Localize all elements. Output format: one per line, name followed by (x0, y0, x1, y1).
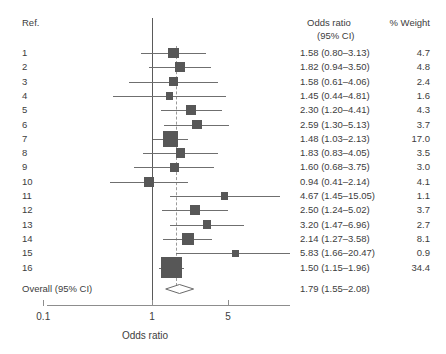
effect-size-marker (169, 77, 178, 86)
study-ref-label: 4 (22, 91, 48, 101)
odds-ratio-value: 3.20 (1.47–6.96) (300, 220, 370, 230)
weight-value: 4.1 (380, 177, 430, 187)
study-ref-label: 11 (22, 191, 48, 201)
x-axis-tick (152, 300, 153, 306)
weight-value: 1.1 (380, 191, 430, 201)
study-ref-label: 13 (22, 220, 48, 230)
weight-value: 3.5 (380, 148, 430, 158)
odds-ratio-value: 1.58 (0.80–3.13) (300, 48, 370, 58)
weight-value: 3.7 (380, 120, 430, 130)
pooled-estimate-diamond (166, 285, 194, 294)
effect-size-marker (192, 120, 202, 130)
effect-size-marker (144, 177, 154, 187)
odds-ratio-value: 1.58 (0.61–4.06) (300, 77, 370, 87)
study-ref-label: 7 (22, 134, 48, 144)
x-axis-tick-label: 0.1 (36, 311, 50, 322)
effect-size-marker (203, 220, 212, 229)
effect-size-marker (161, 257, 182, 278)
x-axis-tick (228, 300, 229, 306)
effect-size-marker (163, 131, 179, 147)
null-effect-line (152, 18, 153, 305)
effect-size-marker (232, 250, 239, 257)
effect-size-marker (175, 62, 185, 72)
x-axis-title: Odds ratio (0, 330, 290, 341)
odds-ratio-value: 2.30 (1.20–4.41) (300, 105, 370, 115)
study-ref-label: 14 (22, 234, 48, 244)
weight-value: 3.0 (380, 162, 430, 172)
weight-value: 2.7 (380, 220, 430, 230)
effect-size-marker (176, 148, 185, 157)
x-axis-tick (43, 300, 44, 306)
study-ref-label: 15 (22, 248, 48, 258)
odds-ratio-value: 1.48 (1.03–2.13) (300, 134, 370, 144)
odds-ratio-value: 4.67 (1.45–15.05) (300, 191, 375, 201)
weight-value: 17.0 (380, 134, 430, 144)
weight-value: 2.4 (380, 77, 430, 87)
effect-size-marker (168, 48, 178, 58)
study-ref-label: 12 (22, 205, 48, 215)
weight-value: 4.7 (380, 48, 430, 58)
x-axis-line (47, 305, 290, 306)
study-ref-label: 1 (22, 48, 48, 58)
study-ref-label: 9 (22, 162, 48, 172)
effect-size-marker (186, 105, 196, 115)
weight-value: 0.9 (380, 248, 430, 258)
weight-value: 4.8 (380, 62, 430, 72)
effect-size-marker (166, 92, 174, 100)
study-ref-label: 6 (22, 120, 48, 130)
odds-ratio-value: 0.94 (0.41–2.14) (300, 177, 370, 187)
x-axis-tick-label: 5 (225, 311, 231, 322)
odds-ratio-value: 2.14 (1.27–3.58) (300, 234, 370, 244)
overall-label: Overall (95% CI) (22, 284, 92, 294)
odds-ratio-value: 1.45 (0.44–4.81) (300, 91, 370, 101)
forest-plot: Ref. Odds ratio (95% CI) % Weight 11.58 … (0, 0, 446, 354)
weight-value: 1.6 (380, 91, 430, 101)
weight-value: 3.7 (380, 205, 430, 215)
study-ref-label: 16 (22, 263, 48, 273)
effect-size-marker (221, 192, 228, 199)
overall-odds-ratio-text: 1.79 (1.55–2.08) (300, 284, 370, 294)
ref-column-header: Ref. (22, 18, 39, 28)
odds-ratio-value: 1.82 (0.94–3.50) (300, 62, 370, 72)
odds-ratio-value: 5.83 (1.66–20.47) (300, 248, 375, 258)
odds-ratio-value: 1.83 (0.83–4.05) (300, 148, 370, 158)
study-ref-label: 8 (22, 148, 48, 158)
weight-value: 34.4 (380, 263, 430, 273)
study-ref-label: 3 (22, 77, 48, 87)
odds-ratio-value: 2.59 (1.30–5.13) (300, 120, 370, 130)
x-axis-tick-label: 1 (149, 311, 155, 322)
effect-size-marker (190, 205, 200, 215)
weight-value: 8.1 (380, 234, 430, 244)
weight-column-header: % Weight (380, 18, 430, 28)
effect-size-marker (170, 163, 179, 172)
study-ref-label: 2 (22, 62, 48, 72)
odds-ratio-value: 1.60 (0.68–3.75) (300, 162, 370, 172)
odds-ratio-ci-subheader: (95% CI) (317, 31, 354, 41)
study-ref-label: 10 (22, 177, 48, 187)
weight-value: 4.3 (380, 105, 430, 115)
effect-size-marker (182, 233, 194, 245)
odds-ratio-value: 1.50 (1.15–1.96) (300, 263, 370, 273)
odds-ratio-value: 2.50 (1.24–5.02) (300, 205, 370, 215)
odds-ratio-column-header: Odds ratio (307, 18, 351, 28)
study-ref-label: 5 (22, 105, 48, 115)
